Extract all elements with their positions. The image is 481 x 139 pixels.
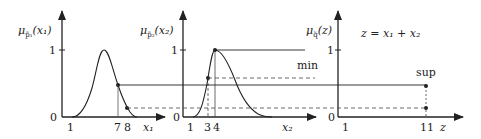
y-tick-label-0-p3: 0 [328, 111, 335, 124]
y-tick-label-1-p2: 1 [171, 44, 178, 57]
x-tick-1: 1 [67, 121, 74, 134]
panel-2: μp̃₂(x₂) 1 0 1 3 4 x₂ min [140, 11, 318, 134]
membership-curve-p2 [193, 50, 272, 117]
min-label: min [297, 59, 318, 72]
panel-3: μq̃(z) 1 0 1 11 z z = x₁ + x₂ sup [306, 11, 463, 134]
sup-label: sup [416, 66, 436, 79]
x-tick-1-p2: 1 [187, 121, 194, 134]
equation-label: z = x₁ + x₂ [360, 27, 420, 40]
fuzzy-extension-diagram: μp̃₁(x₁) 1 0 1 7 8 x₁ μp̃₂(x₂) 1 0 1 3 4… [0, 0, 481, 139]
x-tick-1-p3: 1 [342, 121, 349, 134]
x-tick-7: 7 [114, 121, 121, 134]
y-tick-label-1-p3: 1 [327, 44, 334, 57]
ylabel-panel-2: μp̃₂(x₂) [140, 24, 174, 39]
x-tick-4: 4 [213, 121, 220, 134]
x-axis-label-1: x₁ [143, 121, 154, 134]
y-tick-label-0: 0 [50, 111, 57, 124]
x-tick-8: 8 [124, 121, 131, 134]
ylabel-panel-3: μq̃(z) [306, 24, 332, 39]
x-tick-3: 3 [204, 121, 211, 134]
x-tick-11: 11 [420, 121, 434, 134]
x-axis-label-2: x₂ [282, 121, 293, 134]
x-axis-label-3: z [439, 121, 446, 134]
y-tick-label-0-p2: 0 [173, 111, 180, 124]
y-tick-label-1: 1 [49, 44, 56, 57]
ylabel-panel-1: μp̃₁(x₁) [18, 24, 52, 39]
